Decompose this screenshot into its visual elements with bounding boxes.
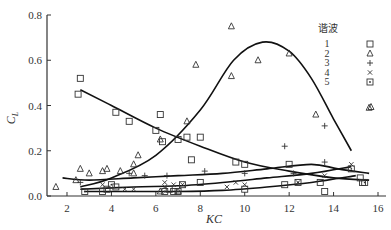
y-tick-label: 0.2 bbox=[28, 145, 42, 157]
data-point-square bbox=[77, 75, 83, 81]
legend-marker-x bbox=[368, 70, 372, 74]
data-point-plus bbox=[202, 168, 208, 174]
data-point-square bbox=[197, 134, 203, 140]
legend: 谐波12345 bbox=[318, 22, 373, 87]
data-point-triangle bbox=[77, 165, 83, 171]
data-point-plus bbox=[164, 173, 170, 179]
legend-marker-triangle bbox=[367, 50, 373, 56]
x-tick-label: 10 bbox=[239, 202, 251, 214]
data-point-square bbox=[126, 118, 132, 124]
data-point-plus bbox=[322, 159, 328, 165]
data-point-x bbox=[163, 180, 167, 184]
data-point-square bbox=[75, 91, 81, 97]
legend-marker-dotted-square bbox=[367, 79, 373, 85]
y-tick-label: 0.4 bbox=[28, 100, 42, 112]
data-point-triangle bbox=[131, 161, 137, 167]
data-point-square bbox=[184, 134, 190, 140]
x-tick-label: 2 bbox=[64, 202, 70, 214]
x-tick-label: 16 bbox=[373, 202, 385, 214]
y-tick-label: 0.8 bbox=[28, 9, 42, 21]
legend-title: 谐波 bbox=[318, 22, 338, 34]
data-point-triangle bbox=[117, 168, 123, 174]
chart-canvas: 2468101214160.00.20.40.60.8 谐波12345 KC C… bbox=[0, 0, 391, 230]
y-axis-label-sub: L bbox=[11, 111, 20, 117]
data-point-triangle bbox=[193, 61, 199, 67]
data-point-plus bbox=[282, 143, 288, 149]
legend-marker-square bbox=[367, 41, 373, 47]
data-point-triangle bbox=[53, 183, 59, 189]
data-point-dotted-square bbox=[108, 182, 114, 188]
y-tick-label: 0.0 bbox=[28, 190, 42, 202]
x-tick-label: 12 bbox=[284, 202, 295, 214]
data-point-triangle bbox=[228, 23, 234, 29]
data-point-triangle bbox=[228, 73, 234, 79]
data-point-square bbox=[157, 112, 163, 118]
harmonic-2-fit bbox=[80, 42, 351, 187]
data-point-square bbox=[188, 157, 194, 163]
data-point-triangle bbox=[104, 165, 110, 171]
data-point-triangle bbox=[86, 170, 92, 176]
legend-marker-plus bbox=[367, 60, 373, 66]
y-tick-label: 0.6 bbox=[28, 54, 42, 66]
data-point-x bbox=[225, 185, 229, 189]
data-point-triangle bbox=[131, 170, 137, 176]
data-point-square bbox=[322, 188, 328, 194]
x-tick-label: 14 bbox=[328, 202, 340, 214]
data-point-triangle bbox=[184, 118, 190, 124]
x-tick-label: 8 bbox=[198, 202, 204, 214]
legend-label: 5 bbox=[325, 76, 330, 87]
x-axis-label: KC bbox=[205, 212, 223, 226]
data-point-triangle bbox=[255, 57, 261, 63]
x-tick-label: 6 bbox=[153, 202, 159, 214]
data-point-triangle bbox=[135, 152, 141, 158]
data-point-x bbox=[100, 182, 104, 186]
y-axis-label: CL bbox=[4, 111, 20, 124]
data-point-plus bbox=[322, 123, 328, 129]
x-tick-label: 4 bbox=[109, 202, 115, 214]
data-point-square bbox=[113, 109, 119, 115]
data-point-triangle bbox=[313, 111, 319, 117]
